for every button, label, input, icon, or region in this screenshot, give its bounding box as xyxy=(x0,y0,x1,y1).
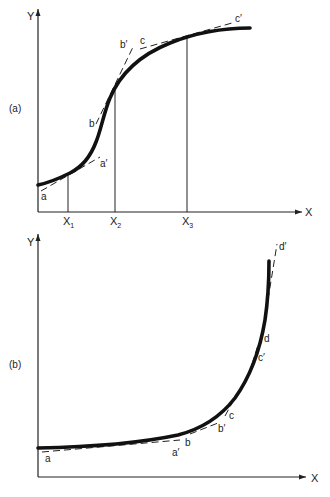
x-axis-label: X xyxy=(311,472,319,484)
label-c-prime: c′ xyxy=(258,352,265,363)
x2-label: X2 xyxy=(110,215,121,229)
label-b: b xyxy=(89,118,95,129)
label-a-prime: a′ xyxy=(172,447,180,458)
label-b: b xyxy=(185,437,191,448)
y-axis-label: Y xyxy=(27,10,35,22)
label-d-prime: d′ xyxy=(279,241,287,252)
label-a-prime: a′ xyxy=(100,158,108,169)
diagram-canvas: Y X (a) X1 X2 X3 a a′ b b′ c c′ Y X (b) xyxy=(0,0,330,497)
label-c: c xyxy=(140,35,145,46)
x-axis-label: X xyxy=(305,206,313,218)
label-c-prime: c′ xyxy=(235,13,242,24)
x3-label: X3 xyxy=(182,215,193,229)
panel-b: Y X (b) a a′ b b′ c c′ d d′ xyxy=(9,234,319,484)
label-a: a xyxy=(41,191,47,202)
panel-label: (b) xyxy=(9,359,21,370)
x1-label: X1 xyxy=(63,215,74,229)
panel-label: (a) xyxy=(9,103,21,114)
y-axis-label: Y xyxy=(27,236,35,248)
sigmoid-curve xyxy=(38,28,250,185)
label-b-prime: b′ xyxy=(120,39,128,50)
label-d: d xyxy=(264,333,270,344)
label-b-prime: b′ xyxy=(218,423,226,434)
label-a: a xyxy=(45,453,51,464)
panel-a: Y X (a) X1 X2 X3 a a′ b b′ c c′ xyxy=(9,9,313,229)
exponential-curve xyxy=(38,261,269,448)
label-c: c xyxy=(229,410,234,421)
